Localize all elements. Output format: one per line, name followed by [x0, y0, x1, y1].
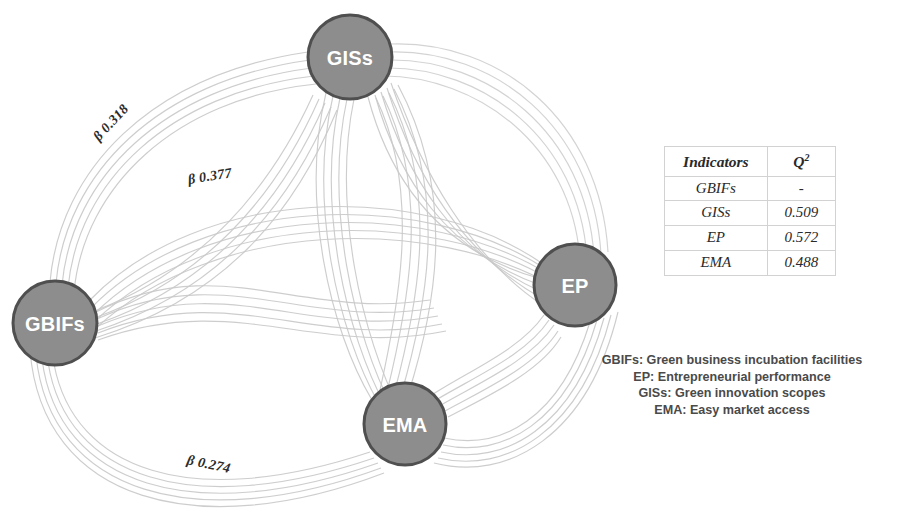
legend-line-ep: EP: Entrepreneurial performance — [560, 369, 904, 386]
header-q2-superscript: 2 — [804, 152, 809, 163]
table-row: EP 0.572 — [665, 226, 836, 251]
cell-q2: 0.509 — [767, 201, 835, 226]
legend-line-gbifs: GBIFs: Green business incubation facilit… — [560, 352, 904, 369]
table-row: EMA 0.488 — [665, 250, 836, 275]
node-label-giss: GISs — [327, 47, 373, 69]
cell-q2: 0.488 — [767, 250, 835, 275]
cell-indicator: EMA — [665, 250, 768, 275]
cell-q2: - — [767, 176, 835, 201]
edge-gbifs-ema — [30, 350, 384, 507]
node-ema[interactable]: EMA — [364, 383, 446, 465]
header-indicators: Indicators — [665, 147, 768, 177]
legend-line-giss: GISs: Green innovation scopes — [560, 385, 904, 402]
table-row: GISs 0.509 — [665, 201, 836, 226]
table-header-row: Indicators Q2 — [665, 147, 836, 177]
table-row: GBIFs - — [665, 176, 836, 201]
edge-ema-giss-cross — [376, 85, 436, 395]
edge-ema-ep — [430, 315, 561, 417]
node-giss[interactable]: GISs — [308, 15, 392, 99]
header-q2-base: Q — [793, 153, 804, 170]
edge-gbifs-giss — [50, 52, 316, 292]
node-label-ep: EP — [561, 275, 588, 297]
node-label-gbifs: GBIFs — [25, 313, 85, 335]
node-ep[interactable]: EP — [534, 244, 616, 326]
figure-canvas: GISs GBIFs EP EMA β 0.318 β 0.377 β 0.27… — [0, 0, 908, 517]
cell-indicator: GISs — [665, 201, 768, 226]
q2-table: Indicators Q2 GBIFs - GISs 0.509 EP 0.57… — [664, 146, 836, 276]
edge-gbifs-ep — [90, 207, 554, 328]
edge-giss-ema — [316, 93, 400, 410]
cell-indicator: GBIFs — [665, 176, 768, 201]
node-label-ema: EMA — [382, 414, 427, 436]
cell-indicator: EP — [665, 226, 768, 251]
header-q2: Q2 — [767, 147, 835, 177]
abbreviation-legend: GBIFs: Green business incubation facilit… — [560, 352, 904, 418]
path-model-diagram: GISs GBIFs EP EMA — [0, 0, 640, 517]
cell-q2: 0.572 — [767, 226, 835, 251]
legend-line-ema: EMA: Easy market access — [560, 402, 904, 419]
node-gbifs[interactable]: GBIFs — [13, 281, 97, 365]
